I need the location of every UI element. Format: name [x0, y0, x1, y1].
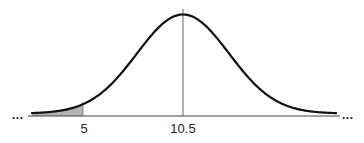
- bell-curve: [32, 15, 336, 114]
- right-axis-continuation: ...: [342, 109, 354, 121]
- left-axis-continuation: ...: [12, 109, 24, 121]
- tick-label-5: 5: [80, 122, 87, 135]
- tick-label-mean: 10.5: [170, 122, 195, 135]
